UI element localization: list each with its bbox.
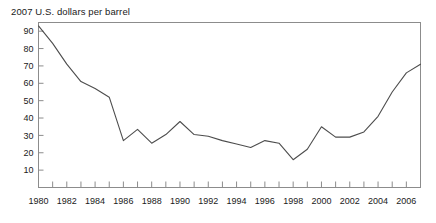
y-axis-labels: 102030405060708090 [23, 26, 33, 175]
x-tick-label: 1998 [283, 196, 303, 206]
chart-figure: 2007 U.S. dollars per barrel 10203040506… [0, 0, 436, 223]
x-tick-label: 1994 [227, 196, 247, 206]
x-tick-label: 2006 [396, 196, 416, 206]
x-tick-label: 1996 [255, 196, 275, 206]
y-tick-label: 40 [23, 113, 33, 123]
x-tick-label: 1984 [85, 196, 105, 206]
plot-area-border [39, 23, 421, 188]
y-tick-label: 80 [23, 44, 33, 54]
y-tick-label: 70 [23, 61, 33, 71]
x-tick-label: 1982 [57, 196, 77, 206]
y-tick-label: 30 [23, 131, 33, 141]
y-tick-label: 90 [23, 26, 33, 36]
x-tick-label: 2004 [368, 196, 388, 206]
y-tick-label: 60 [23, 78, 33, 88]
x-tick-label: 2000 [311, 196, 331, 206]
x-tick-label: 1980 [28, 196, 48, 206]
x-tick-label: 1992 [198, 196, 218, 206]
x-tick-label: 1988 [142, 196, 162, 206]
y-tick-label: 50 [23, 96, 33, 106]
x-axis-labels: 1980198219841986198819901992199419961998… [28, 196, 416, 206]
x-tick-label: 1986 [113, 196, 133, 206]
y-tick-label: 10 [23, 165, 33, 175]
y-tick-label: 20 [23, 148, 33, 158]
x-tick-label: 1990 [170, 196, 190, 206]
line-chart-plot: 102030405060708090 198019821984198619881… [0, 0, 436, 223]
x-tick-label: 2002 [340, 196, 360, 206]
